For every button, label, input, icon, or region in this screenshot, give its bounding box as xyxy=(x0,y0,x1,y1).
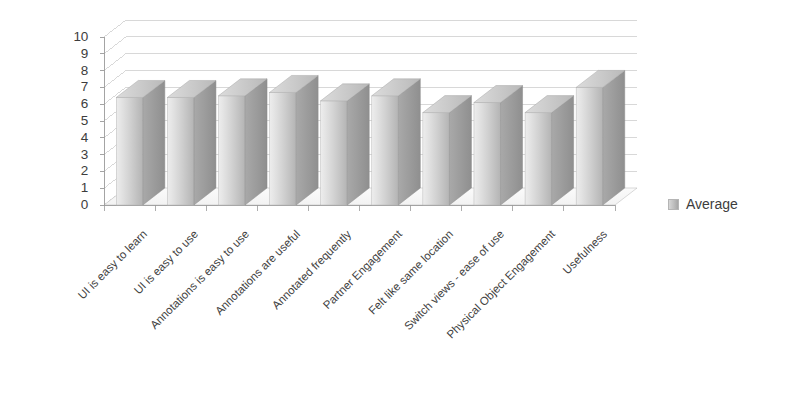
category-label: Annotations are useful xyxy=(213,228,302,317)
category-label: Felt like same location xyxy=(367,228,456,317)
chart-legend: Average xyxy=(668,196,738,212)
legend-swatch-average xyxy=(668,199,679,210)
chart-container: 109876543210 UI is easy to learnUI is ea… xyxy=(0,0,795,420)
category-label: Usefulness xyxy=(560,228,609,277)
category-label: Annotations is easy to use xyxy=(148,228,251,331)
category-label: Switch views - ease of use xyxy=(402,228,506,332)
legend-label-average: Average xyxy=(686,196,738,212)
category-label: Physical Object Engagement xyxy=(445,228,558,341)
